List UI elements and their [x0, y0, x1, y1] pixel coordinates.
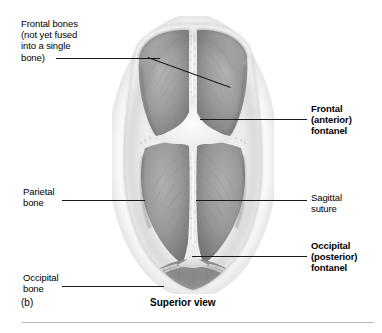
footer-divider: [22, 322, 374, 323]
leader-line-sagittal-suture: [196, 200, 307, 201]
label-occipital-bone: Occipital bone: [23, 272, 93, 294]
leader-line-frontal-fontanel: [200, 119, 307, 120]
label-occipital-fontanel: Occipital (posterior) fontanel: [311, 240, 382, 274]
label-parietal-bone: Parietal bone: [23, 186, 93, 208]
label-frontal-bones: Frontal bones (not yet fused into a sing…: [21, 18, 113, 63]
figure-caption: Superior view: [150, 297, 216, 308]
label-sagittal-suture: Sagittal suture: [311, 192, 381, 214]
label-frontal-fontanel: Frontal (anterior) fontanel: [311, 103, 381, 137]
panel-letter: (b): [21, 297, 33, 308]
figure-panel-b: Frontal bones (not yet fused into a sing…: [0, 0, 382, 333]
leader-line-occipital-fontanel: [192, 256, 307, 257]
